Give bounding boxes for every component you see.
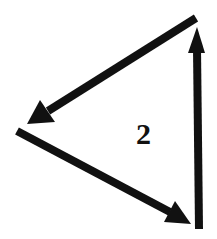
- region-label: 2: [136, 117, 151, 150]
- arrowhead-icon: [188, 27, 205, 53]
- upper-left-arrow: [27, 18, 196, 124]
- vertical-up-arrow: [188, 27, 205, 229]
- lower-right-arrow: [17, 131, 191, 224]
- triangle-arrow-diagram: 2: [0, 0, 217, 239]
